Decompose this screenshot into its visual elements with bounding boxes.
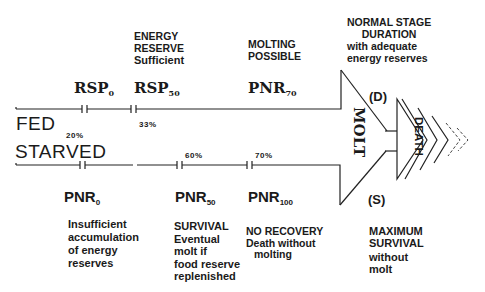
desc-insufficient: Insufficient accumulation of energy rese… bbox=[68, 218, 139, 270]
fed-label: FED bbox=[16, 113, 56, 135]
note-line: DURATION bbox=[347, 28, 431, 40]
desc-line: NO RECOVERY bbox=[246, 226, 323, 238]
marker-pnr70: PNR70 bbox=[248, 79, 297, 98]
marker-name: PNR bbox=[175, 188, 207, 205]
note-line: MOLTING bbox=[248, 38, 301, 50]
note-line: RESERVE bbox=[134, 42, 184, 54]
energy-reserve-note: ENERGY RESERVE Sufficient bbox=[134, 30, 184, 66]
note-line: POSSIBLE bbox=[248, 50, 301, 62]
pct-60: 60% bbox=[185, 151, 203, 160]
note-line: MAXIMUM bbox=[369, 225, 424, 237]
marker-rsp50: RSP50 bbox=[134, 79, 180, 98]
desc-line: SURVIVAL bbox=[174, 220, 240, 233]
maximum-survival-note: MAXIMUM SURVIVAL without molt bbox=[369, 225, 424, 275]
pct-70: 70% bbox=[255, 151, 273, 160]
marker-sub: 50 bbox=[169, 88, 180, 98]
marker-pnr100: PNR100 bbox=[248, 188, 293, 207]
desc-line: Insufficient bbox=[68, 218, 139, 231]
starved-label: STARVED bbox=[15, 141, 107, 163]
marker-sub: 0 bbox=[109, 88, 115, 98]
desc-line: molting bbox=[246, 249, 323, 261]
molting-possible-note: MOLTING POSSIBLE bbox=[248, 38, 301, 62]
death-text: DEATH bbox=[413, 117, 425, 156]
desc-line: food reserve bbox=[174, 258, 240, 271]
marker-sub: 100 bbox=[280, 198, 293, 207]
marker-name: PNR bbox=[248, 188, 280, 205]
note-line: without bbox=[369, 251, 424, 263]
desc-line: of energy bbox=[68, 244, 139, 257]
molt-text: MOLT bbox=[350, 107, 368, 157]
marker-sub: 50 bbox=[207, 198, 216, 207]
note-line: Sufficient bbox=[134, 54, 184, 66]
note-line: SURVIVAL bbox=[369, 237, 424, 249]
pct-20: 20% bbox=[66, 131, 84, 140]
note-line: molt bbox=[369, 263, 424, 275]
marker-sub: 70 bbox=[285, 88, 296, 98]
desc-line: reserves bbox=[68, 257, 139, 270]
pct-33: 33% bbox=[139, 120, 157, 129]
marker-name: PNR bbox=[248, 79, 285, 97]
survival-marker: (S) bbox=[368, 192, 385, 207]
duration-marker: (D) bbox=[369, 89, 387, 104]
note-line: energy reserves bbox=[347, 52, 431, 64]
marker-pnr0: PNR0 bbox=[64, 188, 100, 207]
desc-line: accumulation bbox=[68, 231, 139, 244]
marker-name: RSP bbox=[74, 79, 109, 97]
marker-rsp0: RSP0 bbox=[74, 79, 114, 98]
marker-name: PNR bbox=[64, 188, 96, 205]
desc-survival: SURVIVAL Eventual molt if food reserve r… bbox=[174, 220, 240, 283]
marker-pnr50: PNR50 bbox=[175, 188, 216, 207]
desc-line: molt if bbox=[174, 245, 240, 258]
desc-line: replenished bbox=[174, 270, 240, 283]
marker-sub: 0 bbox=[96, 198, 100, 207]
normal-stage-note: NORMAL STAGE DURATION with adequate ener… bbox=[347, 16, 431, 64]
note-line: NORMAL STAGE bbox=[347, 16, 431, 28]
desc-line: Eventual bbox=[174, 233, 240, 246]
note-line: with adequate bbox=[347, 40, 431, 52]
marker-name: RSP bbox=[134, 79, 169, 97]
note-line: ENERGY bbox=[134, 30, 184, 42]
desc-no-recovery: NO RECOVERY Death without molting bbox=[246, 226, 323, 261]
